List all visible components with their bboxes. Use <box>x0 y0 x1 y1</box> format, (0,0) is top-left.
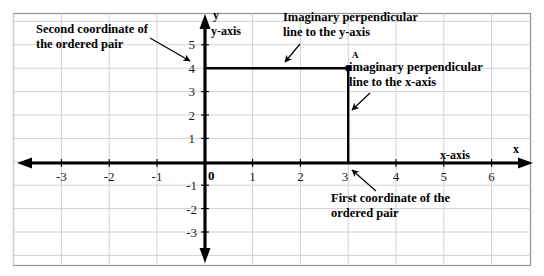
point-a-label: A <box>352 50 359 60</box>
y-tick-label--3: -3 <box>186 225 197 240</box>
coordinate-plane-figure: -3 -2 -1 1 2 3 4 5 6 5 4 3 2 1 -1 -2 -3 … <box>0 0 544 276</box>
x-tick-label-2: 2 <box>297 169 304 184</box>
second-coordinate-annotation-line2: the ordered pair <box>36 37 124 51</box>
imaginary-y-axis-annotation-line1: Imaginary perpendicular <box>283 10 419 24</box>
imaginary-x-axis-annotation-line2: line to the x-axis <box>349 75 436 89</box>
imaginary-y-axis-annotation-line2: line to the y-axis <box>283 25 370 39</box>
y-tick-label-2: 2 <box>189 108 196 123</box>
y-axis-end-label: y <box>213 8 219 22</box>
x-tick-label--1: -1 <box>152 169 163 184</box>
second-coordinate-annotation-line1: Second coordinate of <box>36 22 149 36</box>
y-tick-label-1: 1 <box>189 131 196 146</box>
y-tick-label-4: 4 <box>189 61 196 76</box>
y-tick-label--1: -1 <box>186 178 197 193</box>
x-tick-label--3: -3 <box>56 169 67 184</box>
x-tick-label-5: 5 <box>441 169 448 184</box>
y-tick-label--2: -2 <box>186 202 197 217</box>
x-tick-label-3: 3 <box>342 169 349 184</box>
y-tick-label-3: 3 <box>189 84 196 99</box>
x-tick-label--2: -2 <box>104 169 115 184</box>
x-tick-label-1: 1 <box>249 169 256 184</box>
first-coordinate-annotation-line2: ordered pair <box>331 206 399 220</box>
y-tick-label-5: 5 <box>189 37 196 52</box>
imaginary-x-axis-annotation-line1: imaginary perpendicular <box>349 60 483 74</box>
x-axis-end-label: x <box>513 142 519 156</box>
x-tick-label-6: 6 <box>488 169 495 184</box>
origin-label: 0 <box>208 168 215 183</box>
first-coordinate-annotation-line1: First coordinate of the <box>331 191 451 205</box>
x-axis-name-label: x-axis <box>440 148 470 162</box>
x-tick-label-4: 4 <box>393 169 400 184</box>
y-axis-name-label: y-axis <box>211 24 241 38</box>
